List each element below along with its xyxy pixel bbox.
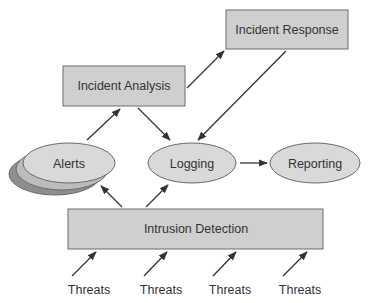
threat-input-2: Threats [140, 252, 182, 297]
edge-detection-to-logging [146, 185, 168, 207]
threat-input-4: Threats [279, 252, 321, 297]
threat-arrow [283, 252, 307, 276]
edge-alerts-to-analysis [87, 109, 120, 140]
intrusion-detection-label: Intrusion Detection [144, 222, 248, 236]
threat-arrow [72, 252, 96, 276]
reporting-node: Reporting [270, 143, 360, 183]
threat-arrow [213, 252, 236, 276]
reporting-label: Reporting [288, 157, 342, 171]
incident-flow-diagram: Incident Response Incident Analysis Aler… [0, 0, 368, 303]
edge-detection-to-alerts [101, 186, 122, 207]
incident-analysis-node: Incident Analysis [63, 66, 185, 106]
threat-label: Threats [140, 283, 182, 297]
alerts-node: Alerts [9, 143, 115, 195]
threat-label: Threats [209, 283, 251, 297]
logging-node: Logging [148, 143, 236, 183]
threat-label: Threats [279, 283, 321, 297]
edge-analysis-to-logging [138, 108, 170, 140]
threat-label: Threats [68, 283, 110, 297]
incident-response-node: Incident Response [226, 10, 348, 49]
logging-label: Logging [170, 157, 215, 171]
edge-analysis-to-response [187, 51, 224, 88]
incident-analysis-label: Incident Analysis [77, 79, 170, 93]
threat-input-3: Threats [209, 252, 251, 297]
threat-arrow [144, 252, 167, 276]
threat-input-1: Threats [68, 252, 110, 297]
intrusion-detection-node: Intrusion Detection [68, 209, 323, 249]
incident-response-label: Incident Response [235, 23, 339, 37]
alerts-label: Alerts [53, 157, 85, 171]
